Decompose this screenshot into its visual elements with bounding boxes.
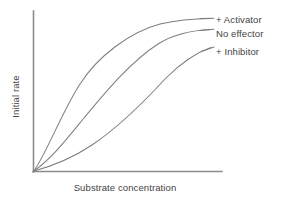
curve-label-no-effector: No effector [216, 29, 263, 39]
leader-line-inhibitor [201, 47, 214, 52]
curve-label-activator: + Activator [216, 15, 262, 25]
curve-label-inhibitor: + Inhibitor [216, 47, 259, 57]
curve-activator [34, 18, 211, 171]
leader-line-no-effector [200, 29, 214, 30]
x-axis-title: Substrate concentration [0, 182, 250, 193]
y-axis-title: Initial rate [8, 58, 22, 134]
enzyme-kinetics-figure: + Activator No effector + Inhibitor Subs… [0, 0, 290, 200]
curve-no-effector [34, 30, 211, 171]
y-axis-title-text: Initial rate [10, 75, 21, 117]
curve-inhibitor [34, 48, 211, 172]
